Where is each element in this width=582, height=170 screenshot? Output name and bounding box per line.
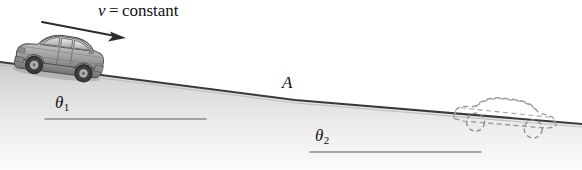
velocity-equation-text: = constant bbox=[106, 1, 179, 20]
car-taillight bbox=[18, 47, 26, 52]
point-a-label: A bbox=[282, 74, 292, 91]
car-side-window-rear bbox=[61, 38, 73, 48]
velocity-variable: v bbox=[98, 1, 106, 20]
physics-incline-diagram: v = constant A θ1 θ2 bbox=[0, 0, 582, 170]
theta2-label: θ2 bbox=[315, 127, 329, 146]
theta1-subscript: 1 bbox=[63, 101, 69, 113]
theta1-label: θ1 bbox=[55, 94, 69, 113]
theta2-subscript: 2 bbox=[323, 134, 329, 146]
velocity-label: v = constant bbox=[98, 2, 179, 19]
